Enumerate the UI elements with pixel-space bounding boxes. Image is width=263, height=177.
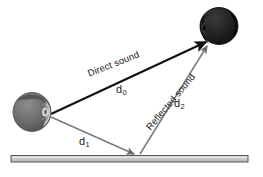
acoustics-diagram: Direct sound d0 Reflected sound d2 d1 <box>0 0 263 177</box>
distance-d2-subscript: 2 <box>180 102 184 111</box>
incident-ray-d1 <box>51 117 134 154</box>
distance-d1-label: d1 <box>79 136 89 147</box>
distance-d2-label: d2 <box>174 98 184 109</box>
listener-head <box>200 8 238 45</box>
sound-source-head <box>13 93 51 132</box>
diagram-canvas <box>0 0 263 177</box>
distance-d0-subscript: 0 <box>122 88 126 97</box>
distance-d0-label: d0 <box>116 84 126 95</box>
distance-d1-subscript: 1 <box>85 140 89 149</box>
reflecting-surface <box>11 156 248 163</box>
